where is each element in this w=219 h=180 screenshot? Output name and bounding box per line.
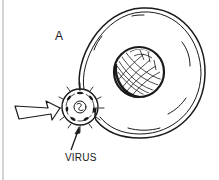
- approach-arrow-icon: [15, 101, 60, 120]
- virus-pointer-arrow: [71, 127, 80, 150]
- diagram-frame: A VIRUS: [0, 0, 219, 180]
- cell-shading-stroke: [128, 128, 160, 130]
- virus-genome: [77, 103, 83, 110]
- cell-shading-stroke: [132, 15, 144, 16]
- cell-shading-stroke: [168, 98, 186, 114]
- nucleus: [114, 47, 164, 99]
- diagram-canvas: [0, 0, 219, 180]
- virus-callout-label: VIRUS: [65, 152, 97, 163]
- panel-label: A: [55, 29, 63, 43]
- cell-shading-stroke: [182, 42, 190, 66]
